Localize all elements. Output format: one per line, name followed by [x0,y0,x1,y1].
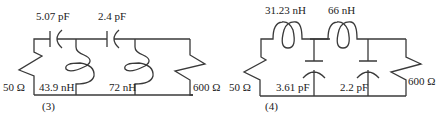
label-72nH: 72 nH [109,81,136,93]
label-43-9nH: 43.9 nH [39,81,75,93]
label-600-ohm: 600 Ω [408,75,435,87]
label-31-23nH: 31.23 nH [265,4,306,16]
label-66nH: 66 nH [328,4,355,16]
label-2-2pF: 2.2 pF [340,81,368,93]
circuit-3: 5.07 pF 2.4 pF 50 Ω 43.9 nH 72 nH 600 Ω … [3,10,220,113]
label-50-ohm: 50 Ω [229,81,251,93]
resistor-600-ohm [391,39,421,96]
circuit-4: 31.23 nH 66 nH 50 Ω 3.61 pF 2.2 pF 600 Ω… [229,4,435,113]
label-3-61pF: 3.61 pF [276,81,310,93]
label-600-ohm: 600 Ω [193,81,220,93]
label-50-ohm: 50 Ω [3,81,25,93]
circuit-diagrams: 5.07 pF 2.4 pF 50 Ω 43.9 nH 72 nH 600 Ω … [0,0,444,116]
caption-3: (3) [42,100,55,113]
caption-4: (4) [265,100,278,113]
capacitor-2-4pF [105,30,190,48]
label-2-4pF: 2.4 pF [98,10,126,22]
inductor-66nH [310,22,406,48]
capacitor-5-07pF [44,30,105,48]
label-5-07pF: 5.07 pF [36,10,70,22]
inductor-31-23nH [269,22,330,48]
